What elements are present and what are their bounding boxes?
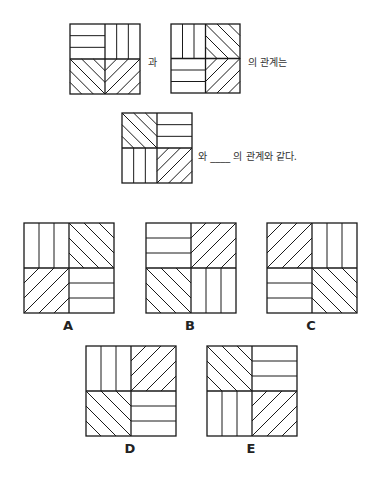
option-a-figure[interactable] (23, 222, 115, 314)
option-c-figure[interactable] (266, 222, 358, 314)
question-figure-3 (121, 112, 193, 184)
option-a-label[interactable]: A (58, 318, 78, 333)
connector-text-2: 의 관계는 (248, 54, 287, 69)
question-figure-2 (170, 23, 241, 94)
option-d-figure[interactable] (85, 345, 177, 437)
connector-text-1: 과 (148, 54, 157, 69)
question-figure-1 (69, 23, 141, 95)
option-d-label[interactable]: D (120, 441, 140, 456)
connector-text-3: 와 ____ 의 관계와 같다. (198, 148, 297, 163)
option-c-label[interactable]: C (301, 318, 321, 333)
option-b-figure[interactable] (145, 222, 237, 314)
option-e-figure[interactable] (206, 345, 298, 437)
option-e-label[interactable]: E (241, 441, 261, 456)
option-b-label[interactable]: B (180, 318, 200, 333)
